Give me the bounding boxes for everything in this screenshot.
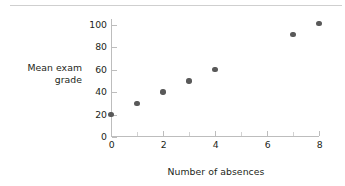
data-point bbox=[212, 67, 217, 72]
y-tick-mark bbox=[112, 92, 117, 93]
y-tick: 100 bbox=[111, 25, 117, 26]
y-axis-title-line-1: Mean exam bbox=[8, 62, 82, 74]
y-tick: 40 bbox=[111, 92, 117, 93]
data-point bbox=[160, 89, 165, 94]
scatter-plot-figure: Mean exam grade 020406080100 02468 Numbe… bbox=[0, 0, 345, 186]
x-tick-label: 6 bbox=[265, 139, 271, 150]
x-minor-tick-mark bbox=[189, 132, 190, 136]
x-tick-mark bbox=[163, 131, 164, 136]
x-minor-tick-mark bbox=[241, 132, 242, 136]
data-point bbox=[316, 21, 321, 26]
x-tick-label: 4 bbox=[213, 139, 219, 150]
y-axis-title: Mean exam grade bbox=[8, 62, 82, 85]
y-tick-mark bbox=[112, 47, 117, 48]
x-tick-label: 2 bbox=[161, 139, 167, 150]
top-divider-rule bbox=[10, 5, 342, 6]
plot-area: 020406080100 02468 bbox=[111, 19, 319, 137]
x-tick-label: 8 bbox=[317, 139, 323, 150]
y-tick-label: 20 bbox=[95, 109, 107, 120]
x-tick-label: 0 bbox=[109, 139, 115, 150]
x-tick: 4 bbox=[215, 131, 216, 137]
data-point bbox=[186, 78, 191, 83]
y-tick: 60 bbox=[111, 70, 117, 71]
x-tick-mark bbox=[215, 131, 216, 136]
x-tick: 0 bbox=[111, 131, 112, 137]
y-tick-mark bbox=[112, 70, 117, 71]
x-axis-title: Number of absences bbox=[112, 166, 320, 177]
x-tick: 2 bbox=[163, 131, 164, 137]
y-tick-mark bbox=[112, 25, 117, 26]
data-point bbox=[134, 101, 139, 106]
x-tick: 6 bbox=[267, 131, 268, 137]
x-tick: 8 bbox=[319, 131, 320, 137]
data-point bbox=[108, 112, 113, 117]
x-minor-tick-mark bbox=[137, 132, 138, 136]
x-tick-mark bbox=[319, 131, 320, 136]
x-tick-mark bbox=[267, 131, 268, 136]
x-tick-mark bbox=[111, 131, 112, 136]
y-tick-label: 60 bbox=[95, 64, 107, 75]
data-point bbox=[290, 32, 295, 37]
y-tick-label: 100 bbox=[89, 19, 107, 30]
y-tick-label: 80 bbox=[95, 41, 107, 52]
y-axis-title-line-2: grade bbox=[8, 74, 82, 86]
x-minor-tick-mark bbox=[293, 132, 294, 136]
y-tick-label: 0 bbox=[101, 131, 107, 142]
y-tick-label: 40 bbox=[95, 86, 107, 97]
y-axis-line bbox=[111, 19, 112, 137]
y-tick: 80 bbox=[111, 47, 117, 48]
